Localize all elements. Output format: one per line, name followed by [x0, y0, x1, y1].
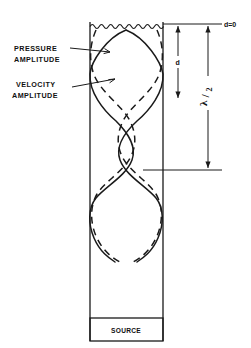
absorber-wavy-line: [90, 25, 164, 29]
d-arrow-head-up-icon: [175, 26, 180, 32]
pressure-amplitude-label-line2: AMPLITUDE: [14, 55, 60, 64]
lambda-denominator: 2: [205, 88, 214, 92]
source-label: SOURCE: [111, 327, 141, 334]
source-box-group: SOURCE: [90, 318, 163, 341]
d-zero-label: d=0: [224, 21, 236, 28]
d-dimension-label: d: [176, 59, 180, 66]
pressure-curve-left: [90, 30, 134, 262]
lambda-symbol: λ: [197, 100, 209, 106]
velocity-curve-right: [118, 30, 162, 262]
velocity-curve-left: [91, 30, 135, 262]
pressure-curve-right: [119, 30, 163, 262]
lambda-arrow-head-down-icon: [205, 162, 210, 168]
d-dimension-group: d: [173, 26, 183, 98]
pressure-amplitude-curves: [90, 30, 163, 262]
reference-line-top: d=0: [163, 21, 236, 28]
lambda-arrow-head-up-icon: [205, 26, 210, 32]
absorber-icon: [90, 25, 164, 29]
velocity-leader-line: [72, 79, 115, 87]
pressure-amplitude-label-line1: PRESSURE: [14, 44, 57, 53]
velocity-amplitude-label-line2: AMPLITUDE: [12, 91, 58, 100]
pressure-amplitude-label-group: PRESSURE AMPLITUDE: [14, 44, 110, 64]
half-wavelength-dimension-group: λ / 2: [197, 26, 218, 168]
velocity-leader-arrow-icon: [108, 79, 115, 83]
d-arrow-head-down-icon: [175, 92, 180, 98]
velocity-amplitude-curves: [91, 30, 163, 262]
acoustic-tube-diagram: PRESSURE AMPLITUDE VELOCITY AMPLITUDE d=…: [0, 0, 251, 348]
velocity-amplitude-label-line1: VELOCITY: [16, 80, 56, 89]
velocity-amplitude-label-group: VELOCITY AMPLITUDE: [12, 79, 115, 100]
tube-walls: [90, 22, 163, 341]
